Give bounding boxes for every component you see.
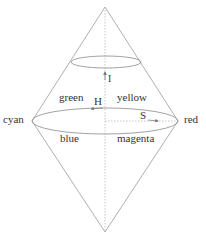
magenta-label: magenta: [117, 133, 154, 144]
small-cross-section-ellipse: [71, 56, 141, 68]
cyan-label: cyan: [3, 114, 24, 125]
hue-label: H: [94, 96, 102, 107]
blue-label: blue: [60, 133, 79, 144]
upper-cone-right-edge: [105, 7, 178, 121]
yellow-label: yellow: [117, 92, 147, 103]
saturation-arrow: [148, 120, 158, 121]
red-label: red: [184, 114, 198, 125]
hsi-double-cone: [0, 0, 206, 239]
intensity-label: I: [108, 74, 111, 84]
saturation-label: S: [140, 110, 146, 121]
green-label: green: [59, 92, 83, 103]
